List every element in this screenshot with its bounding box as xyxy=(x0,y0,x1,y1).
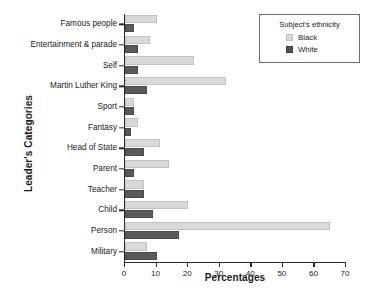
category-label: Fantasy xyxy=(88,124,117,132)
bar-chart-figure: Leader's Categories Famous peopleEnterta… xyxy=(0,0,369,300)
legend-swatch-white-icon xyxy=(286,46,293,53)
y-axis-tick xyxy=(119,189,124,190)
y-axis-tick xyxy=(119,168,124,169)
category-label: Entertainment & parade xyxy=(31,41,117,49)
chart-row: Teacher xyxy=(124,179,345,200)
legend-label-black: Black xyxy=(298,33,317,42)
category-label: Famous people xyxy=(61,20,117,28)
bar-black xyxy=(125,180,144,188)
y-axis-title: Leader's Categories xyxy=(23,54,34,234)
x-axis-title: Percentages xyxy=(124,272,346,283)
x-axis-tick xyxy=(282,262,283,267)
category-label: Sport xyxy=(97,103,117,111)
x-axis-tick xyxy=(250,262,251,267)
legend: Subject's ethnicity Black White xyxy=(259,14,360,63)
category-label: Martin Luther King xyxy=(50,82,117,90)
bar-white xyxy=(125,231,179,239)
legend-item-white: White xyxy=(286,45,353,54)
x-axis-tick xyxy=(124,262,125,267)
bar-white xyxy=(125,169,134,177)
bar-black xyxy=(125,36,150,44)
x-axis-tick xyxy=(345,262,346,267)
chart-row: Sport xyxy=(124,97,345,118)
y-axis-tick xyxy=(119,251,124,252)
bar-black xyxy=(125,201,188,209)
bar-black xyxy=(125,98,134,106)
chart-row: Parent xyxy=(124,159,345,180)
bar-black xyxy=(125,222,330,230)
bar-white xyxy=(125,45,138,53)
category-label: Child xyxy=(98,206,117,214)
y-axis-tick xyxy=(119,210,124,211)
y-axis-tick xyxy=(119,127,124,128)
y-axis-tick xyxy=(119,148,124,149)
x-axis-tick xyxy=(187,262,188,267)
x-axis-tick xyxy=(156,262,157,267)
y-axis-tick xyxy=(119,230,124,231)
chart-row: Head of State xyxy=(124,138,345,159)
bar-white xyxy=(125,128,131,136)
x-axis-tick xyxy=(313,262,314,267)
x-axis-tick xyxy=(219,262,220,267)
bar-white xyxy=(125,107,134,115)
bar-black xyxy=(125,139,160,147)
bar-white xyxy=(125,86,147,94)
bar-white xyxy=(125,66,138,74)
legend-item-black: Black xyxy=(286,33,353,42)
bar-black xyxy=(125,118,138,126)
bar-white xyxy=(125,148,144,156)
y-axis-tick xyxy=(119,24,124,25)
chart-row: Person xyxy=(124,221,345,242)
category-label: Person xyxy=(91,227,117,235)
y-axis-tick xyxy=(119,44,124,45)
bar-black xyxy=(125,56,194,64)
y-axis-tick xyxy=(119,106,124,107)
chart-row: Martin Luther King xyxy=(124,76,345,97)
legend-label-white: White xyxy=(298,45,318,54)
legend-title: Subject's ethnicity xyxy=(266,20,353,29)
bar-white xyxy=(125,252,157,260)
y-axis-tick xyxy=(119,65,124,66)
chart-row: Child xyxy=(124,200,345,221)
bar-white xyxy=(125,24,134,32)
chart-row: Military xyxy=(124,241,345,262)
bar-white xyxy=(125,210,153,218)
bar-black xyxy=(125,242,147,250)
chart-row: Fantasy xyxy=(124,117,345,138)
bar-black xyxy=(125,15,157,23)
bar-white xyxy=(125,190,144,198)
y-axis-tick xyxy=(119,86,124,87)
category-label: Parent xyxy=(93,165,117,173)
category-label: Teacher xyxy=(88,186,117,194)
category-label: Self xyxy=(103,62,117,70)
bar-black xyxy=(125,160,169,168)
legend-swatch-black-icon xyxy=(286,34,293,41)
bar-black xyxy=(125,77,226,85)
category-label: Head of State xyxy=(67,144,117,152)
category-label: Military xyxy=(91,248,117,256)
